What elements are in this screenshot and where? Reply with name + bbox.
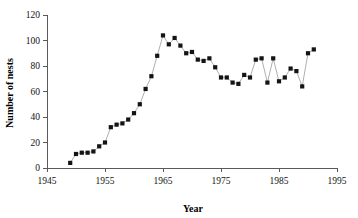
y-tick-label: 100 — [26, 36, 41, 46]
data-point-marker — [126, 117, 130, 121]
y-tick-label: 40 — [31, 112, 41, 122]
data-point-marker — [196, 58, 200, 62]
x-tick-label: 1965 — [154, 176, 173, 186]
data-point-marker — [213, 65, 217, 69]
y-axis-title: Number of nests — [4, 58, 15, 128]
y-tick-label: 120 — [26, 10, 41, 20]
data-point-marker — [74, 152, 78, 156]
data-point-marker — [306, 51, 310, 55]
nest-count-chart-figure: 020406080100120 194519551965197519851995… — [0, 0, 358, 218]
data-point-marker — [231, 80, 235, 84]
y-tick-label: 0 — [35, 163, 40, 173]
x-tick-label: 1945 — [38, 176, 57, 186]
data-point-marker — [80, 151, 84, 155]
data-point-marker — [260, 56, 264, 60]
data-point-marker — [225, 75, 229, 79]
data-point-marker — [115, 123, 119, 127]
data-point-marker — [173, 36, 177, 40]
y-tick-label: 20 — [31, 138, 41, 148]
x-tick-label: 1975 — [212, 176, 231, 186]
data-point-marker — [283, 75, 287, 79]
y-tick-label: 60 — [31, 87, 41, 97]
x-axis-title: Year — [183, 203, 204, 214]
y-axis-tick-labels: 020406080100120 — [26, 10, 41, 173]
y-axis-tick-marks — [43, 15, 47, 168]
data-point-marker — [103, 140, 107, 144]
data-point-marker — [155, 54, 159, 58]
data-point-marker — [120, 121, 124, 125]
data-point-marker — [277, 79, 281, 83]
x-tick-label: 1985 — [270, 176, 289, 186]
y-tick-label: 80 — [31, 61, 41, 71]
data-point-marker — [312, 47, 316, 51]
data-point-marker — [68, 161, 72, 165]
data-point-marker — [271, 56, 275, 60]
data-point-marker — [97, 144, 101, 148]
data-point-marker — [219, 75, 223, 79]
data-point-marker — [294, 69, 298, 73]
data-point-marker — [178, 44, 182, 48]
data-point-marker — [184, 51, 188, 55]
data-point-marker — [190, 50, 194, 54]
data-point-marker — [132, 111, 136, 115]
data-point-marker — [289, 66, 293, 70]
data-point-marker — [242, 73, 246, 77]
data-point-marker — [248, 75, 252, 79]
data-point-marker — [149, 74, 153, 78]
data-point-marker — [254, 58, 258, 62]
data-point-marker — [207, 56, 211, 60]
x-tick-label: 1995 — [328, 176, 347, 186]
number-of-nests-line-chart: 020406080100120 194519551965197519851995… — [0, 0, 358, 218]
data-point-marker — [236, 82, 240, 86]
x-axis-tick-labels: 194519551965197519851995 — [38, 176, 347, 186]
data-point-marker — [161, 33, 165, 37]
x-tick-label: 1955 — [96, 176, 115, 186]
data-point-marker — [167, 42, 171, 46]
x-axis-tick-marks — [47, 168, 337, 172]
data-point-marker — [86, 151, 90, 155]
nests-series-markers — [68, 33, 316, 165]
data-point-marker — [202, 59, 206, 63]
data-point-marker — [265, 80, 269, 84]
data-point-marker — [91, 149, 95, 153]
data-point-marker — [109, 125, 113, 129]
data-point-marker — [144, 87, 148, 91]
data-point-marker — [300, 84, 304, 88]
data-point-marker — [138, 102, 142, 106]
